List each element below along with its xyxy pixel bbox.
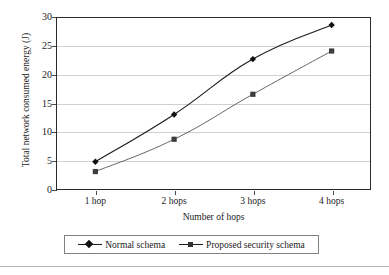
- x-tick-label: 4 hops: [302, 196, 362, 207]
- data-point-marker: [93, 169, 98, 174]
- x-tick-label: 2 hops: [144, 196, 204, 207]
- legend-item-proposed-security-schema: Proposed security schema: [179, 240, 305, 250]
- data-point-marker: [250, 92, 255, 97]
- data-point-marker: [171, 111, 177, 117]
- series-line: [95, 25, 331, 162]
- data-point-marker: [172, 137, 177, 142]
- x-tick-label: 3 hops: [223, 196, 283, 207]
- footer-divider: [0, 266, 389, 267]
- chart-figure: 051015202530 Total network consumed ener…: [0, 0, 389, 275]
- legend-label: Proposed security schema: [206, 240, 305, 250]
- series-layer: [0, 0, 389, 275]
- data-point-marker: [328, 22, 334, 28]
- series-line: [95, 51, 331, 172]
- data-point-marker: [92, 159, 98, 165]
- x-tick-label: 1 hop: [65, 196, 125, 207]
- square-marker-icon: [179, 240, 203, 250]
- chart-legend: Normal schema Proposed security schema: [64, 235, 319, 254]
- data-point-marker: [250, 56, 256, 62]
- x-axis-title: Number of hops: [56, 212, 371, 223]
- legend-label: Normal schema: [105, 240, 165, 250]
- legend-item-normal-schema: Normal schema: [78, 240, 165, 250]
- diamond-marker-icon: [78, 240, 102, 250]
- data-point-marker: [329, 48, 334, 53]
